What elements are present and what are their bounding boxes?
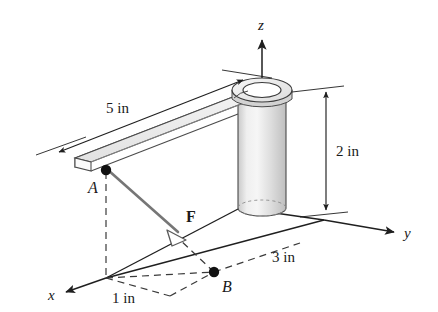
x-axis-line: [66, 278, 106, 292]
dimension-5in: 5 in: [36, 70, 272, 155]
point-B: B: [209, 267, 232, 295]
path-x-leg-to-B: [170, 272, 214, 296]
dim5-ext-right: [222, 70, 272, 78]
dimension-5in-label: 5 in: [106, 100, 129, 116]
path-origin-to-B-upper: [106, 272, 214, 278]
mechanics-diagram: z: [0, 0, 438, 312]
z-axis-label: z: [257, 17, 264, 33]
path-B-to-plane: [178, 238, 214, 272]
y-axis-label: y: [402, 225, 411, 241]
y-axis-line: [324, 220, 394, 232]
force-label-F: F: [186, 208, 196, 225]
hub-bore-ellipse: [243, 83, 281, 98]
dim2-ext-bottom: [300, 212, 348, 217]
figure-container: z: [0, 0, 438, 312]
cylinder: [238, 97, 286, 216]
dimension-2in-label: 2 in: [336, 143, 359, 159]
dimension-2in: 2 in: [292, 86, 359, 217]
x-axis-label: x: [47, 287, 55, 303]
cylinder-body: [238, 97, 286, 216]
force-vector-shaft: [108, 170, 178, 232]
y-axis: y: [324, 220, 411, 241]
dim5-line: [59, 80, 243, 152]
hub-collar: [232, 78, 292, 107]
point-A-marker: [101, 165, 111, 175]
force-vector-F: F: [108, 170, 196, 246]
dim5-ext-left: [36, 137, 86, 155]
dimension-3in-label: 3 in: [272, 249, 295, 265]
dim2-ext-top: [292, 86, 344, 92]
point-B-label: B: [222, 278, 232, 295]
dimension-1in-label: 1 in: [112, 290, 135, 306]
point-A-label: A: [87, 179, 98, 196]
point-B-marker: [209, 267, 219, 277]
beam-bottom-edge: [91, 114, 238, 171]
x-axis: x: [47, 278, 106, 303]
